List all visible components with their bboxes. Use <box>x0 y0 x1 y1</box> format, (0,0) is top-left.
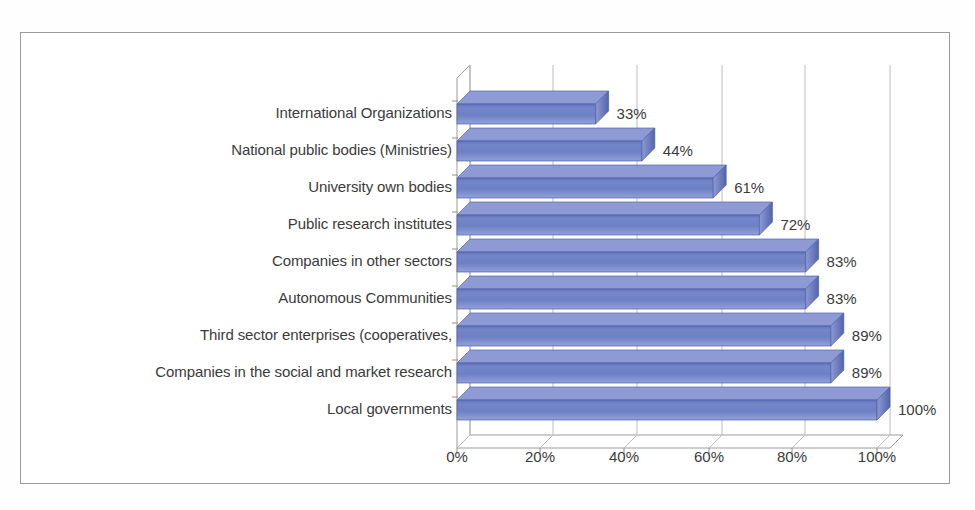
bar-value-label: 100% <box>898 401 936 419</box>
bar <box>457 128 655 161</box>
bar-value-label: 61% <box>734 179 764 197</box>
bar-front-face <box>457 252 806 272</box>
bar <box>457 239 819 272</box>
bar-series <box>457 91 890 420</box>
category-label: National public bodies (Ministries) <box>40 141 452 159</box>
bar-value-label: 72% <box>780 216 810 234</box>
bar-value-label: 83% <box>827 253 857 271</box>
bar <box>457 350 844 383</box>
bar-top-face <box>457 165 726 178</box>
bar-front-face <box>457 141 642 161</box>
bar <box>457 313 844 346</box>
bar <box>457 276 819 309</box>
bar-value-label: 44% <box>663 142 693 160</box>
plot-area: 33%44%61%72%83%83%89%89%100% <box>452 60 912 445</box>
category-label: Companies in other sectors <box>40 252 452 270</box>
bar-front-face <box>457 289 806 309</box>
category-label: Companies in the social and market resea… <box>40 363 452 381</box>
bar-front-face <box>457 363 831 383</box>
category-label: Third sector enterprises (cooperatives, <box>40 326 452 344</box>
category-axis-labels: International Organizations National pub… <box>40 104 452 444</box>
bar-value-label: 83% <box>827 290 857 308</box>
bar-value-label: 89% <box>852 364 882 382</box>
figure-canvas: International Organizations National pub… <box>0 0 975 510</box>
x-tick-label: 80% <box>777 448 807 466</box>
bar <box>457 165 726 198</box>
bar-top-face <box>457 202 772 215</box>
bar-front-face <box>457 326 831 346</box>
category-label: Public research institutes <box>40 215 452 233</box>
bar-front-face <box>457 178 713 198</box>
x-tick-label: 100% <box>858 448 896 466</box>
bar-front-face <box>457 104 596 124</box>
bar-front-face <box>457 400 877 420</box>
bar-top-face <box>457 387 890 400</box>
x-tick-label: 60% <box>694 448 724 466</box>
bar-top-face <box>457 350 844 363</box>
bar <box>457 387 890 420</box>
x-tick-label: 0% <box>446 448 468 466</box>
bar-value-label: 89% <box>852 327 882 345</box>
bar-front-face <box>457 215 759 235</box>
bar <box>457 91 609 124</box>
x-tick-label: 20% <box>525 448 555 466</box>
category-label: Autonomous Communities <box>40 289 452 307</box>
bar-top-face <box>457 313 844 326</box>
category-label: International Organizations <box>40 104 452 122</box>
x-axis-tick-labels: 0%20%40%60%80%100% <box>452 448 922 472</box>
bar-top-face <box>457 276 819 289</box>
category-label: University own bodies <box>40 178 452 196</box>
gridline-depth-connectors <box>457 435 890 448</box>
x-tick-label: 40% <box>609 448 639 466</box>
bar-top-face <box>457 91 609 104</box>
bar-top-face <box>457 239 819 252</box>
bar <box>457 202 772 235</box>
bar-value-label: 33% <box>617 105 647 123</box>
bar-top-face <box>457 128 655 141</box>
category-label: Local governments <box>40 400 452 418</box>
